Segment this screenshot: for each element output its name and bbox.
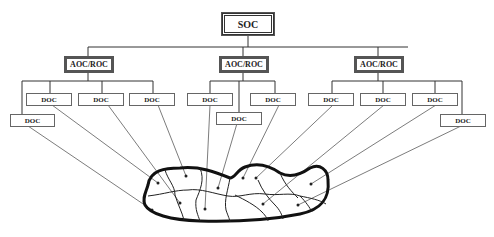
doc-box: DOC [78, 93, 124, 106]
doc-box: DOC [187, 93, 233, 106]
doc-box: DOC [360, 93, 406, 106]
doc-box: DOC [216, 112, 262, 125]
aoc-roc-box-right: AOC/ROC [354, 56, 404, 73]
doc-box: DOC [308, 93, 354, 106]
aoc-roc-box-middle: AOC/ROC [219, 56, 269, 73]
doc-box: DOC [129, 93, 175, 106]
region-outline [144, 165, 328, 221]
aoc-roc-box-left: AOC/ROC [64, 56, 114, 73]
doc-box: DOC [26, 93, 72, 106]
doc-box: DOC [440, 114, 486, 127]
doc-box: DOC [10, 114, 55, 127]
doc-box: DOC [412, 93, 458, 106]
soc-box: SOC [222, 13, 274, 35]
doc-box: DOC [250, 93, 296, 106]
